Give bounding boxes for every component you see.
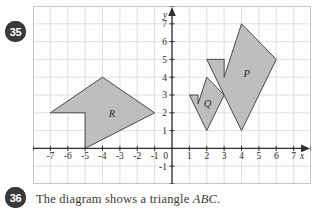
y-tick-label: 7: [162, 19, 167, 29]
page-root: 35 PQR -7-6-5-4-3-2-101234567-11234567xy…: [0, 0, 316, 214]
x-tick-label: 7: [291, 151, 296, 161]
x-tick-label: 3: [222, 151, 227, 161]
y-tick-label: -1: [159, 162, 167, 172]
shape-label-R: R: [108, 108, 116, 119]
question-number-badge-36: 36: [5, 187, 26, 208]
shape-label-P: P: [243, 68, 251, 79]
x-tick-label: -3: [116, 151, 124, 161]
x-tick-label: 4: [239, 151, 244, 161]
x-tick-label: -6: [64, 151, 72, 161]
y-tick-label: 3: [162, 90, 167, 100]
y-tick-label: 1: [162, 126, 167, 136]
y-tick-label: 5: [162, 55, 167, 65]
y-tick-label: 2: [162, 108, 167, 118]
origin-label: 0: [163, 151, 168, 161]
x-axis-label: x: [299, 151, 305, 161]
y-axis-label: y: [162, 10, 168, 20]
x-tick-label: 5: [257, 151, 262, 161]
shape-P: [207, 24, 277, 131]
y-axis-arrow-icon: [168, 7, 176, 16]
question-36-triangle-name: ABC: [193, 192, 217, 206]
question-number-badge-35: 35: [5, 21, 26, 42]
x-tick-label: -2: [133, 151, 141, 161]
x-tick-label: 1: [187, 151, 192, 161]
x-tick-label: -1: [151, 151, 159, 161]
coordinate-grid-svg: PQR -7-6-5-4-3-2-101234567-11234567xy: [33, 6, 311, 184]
y-tick-label: 4: [162, 73, 167, 83]
x-tick-label: -5: [81, 151, 89, 161]
question-36-text-before: The diagram shows a triangle: [36, 192, 193, 206]
x-tick-label: -7: [46, 151, 54, 161]
x-tick-label: 2: [204, 151, 209, 161]
shape-label-Q: Q: [204, 98, 212, 109]
question-36-text: The diagram shows a triangle ABC.: [36, 192, 220, 207]
coordinate-grid-diagram: PQR -7-6-5-4-3-2-101234567-11234567xy: [33, 6, 311, 184]
question-36-text-after: .: [217, 192, 220, 206]
y-tick-label: 6: [162, 37, 167, 47]
x-tick-label: -4: [99, 151, 107, 161]
shape-R: [50, 77, 154, 148]
x-tick-label: 6: [274, 151, 279, 161]
